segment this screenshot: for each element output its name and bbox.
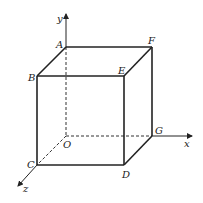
vertex-label-B: B [27, 72, 35, 83]
axis-label-x: x [184, 138, 190, 149]
vertex-label-F: F [147, 35, 156, 46]
vertex-label-A: A [55, 39, 63, 50]
vertex-label-G: G [155, 125, 163, 136]
cube-diagram: y x z A F B E O G C D [0, 0, 203, 203]
vertex-label-E: E [117, 65, 126, 76]
axis-label-z: z [22, 183, 29, 194]
vertex-label-C: C [27, 159, 35, 170]
hidden-edge-OC [37, 136, 66, 165]
vertex-label-O: O [63, 139, 71, 150]
axis-label-y: y [56, 13, 63, 24]
vertex-label-D: D [121, 169, 130, 180]
